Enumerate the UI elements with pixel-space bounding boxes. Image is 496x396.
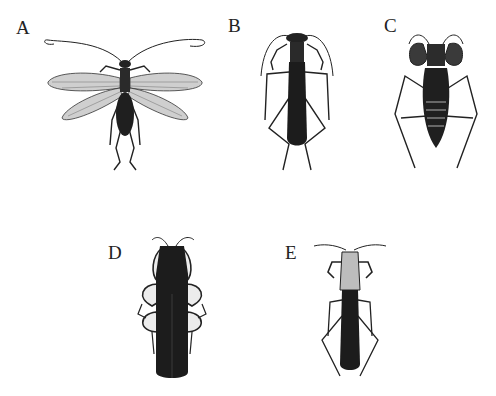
panel-label-d: D	[108, 243, 122, 262]
panel-label-a: A	[16, 18, 30, 37]
insect-figure-c	[393, 28, 483, 178]
insect-figure-e	[310, 240, 390, 385]
insect-figure-a	[40, 30, 210, 180]
panel-label-e: E	[285, 243, 297, 262]
panel-label-b: B	[228, 16, 241, 35]
insect-figure-d	[132, 234, 212, 384]
insect-figure-b	[255, 28, 340, 178]
